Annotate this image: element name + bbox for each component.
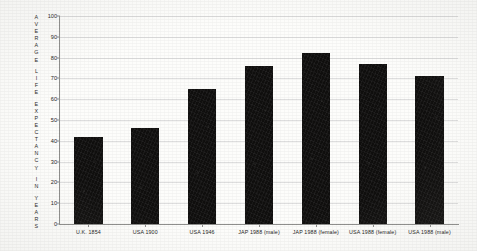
y-axis-title-letter: F	[35, 82, 39, 89]
bar-slot	[302, 16, 330, 224]
y-axis-title-letter: E	[35, 89, 39, 96]
x-tick-label: USA 1900	[133, 229, 158, 235]
bar	[415, 76, 443, 224]
y-axis-title-letter: E	[35, 101, 39, 108]
x-tick-label: JAP 1988 (female)	[293, 229, 339, 235]
bar-slot	[74, 16, 102, 224]
y-tick-label: 80	[51, 55, 57, 61]
x-tick-mark	[373, 224, 374, 227]
y-axis-title: AVERAGELIFEEXPECTANCYINYEARS	[30, 14, 43, 230]
bar	[245, 66, 273, 224]
y-tick-label: 20	[51, 179, 57, 185]
y-axis-title-letter: A	[35, 209, 39, 216]
y-axis-title-letter: V	[35, 21, 39, 28]
y-axis-title-letter: N	[34, 150, 38, 157]
bar	[74, 137, 102, 224]
bar-slot	[188, 16, 216, 224]
y-tick-label: 50	[51, 117, 57, 123]
bar	[131, 128, 159, 224]
y-tick-label: 10	[51, 200, 57, 206]
y-axis-title-letter: R	[34, 216, 38, 223]
x-axis-ticks: U.K. 1854USA 1900USA 1946JAP 1988 (male)…	[60, 224, 458, 248]
y-axis-title-letter: E	[35, 57, 39, 64]
y-axis-title-letter: G	[34, 49, 38, 56]
y-tick-label: 0	[54, 221, 57, 227]
x-tick-mark	[145, 224, 146, 227]
bar	[359, 64, 387, 224]
y-tick-label: 60	[51, 96, 57, 102]
x-tick-label: U.K. 1854	[76, 229, 101, 235]
x-tick-label: JAP 1988 (male)	[238, 229, 280, 235]
bar	[302, 53, 330, 224]
y-axis-title-letter: T	[35, 136, 39, 143]
y-axis-title-letter: I	[36, 176, 38, 183]
life-expectancy-bar-chart: AVERAGELIFEEXPECTANCYINYEARS 01020304050…	[0, 0, 477, 251]
bar-slot	[245, 16, 273, 224]
y-axis-title-letter: N	[34, 183, 38, 190]
y-tick-label: 30	[51, 159, 57, 165]
y-axis-title-letter: Y	[35, 165, 39, 172]
x-tick-mark	[430, 224, 431, 227]
x-tick-label: USA 1946	[190, 229, 215, 235]
bar-slot	[131, 16, 159, 224]
y-axis-title-letter: A	[35, 42, 39, 49]
bar-series	[60, 16, 458, 224]
y-tick-label: 100	[48, 13, 57, 19]
bar-slot	[415, 16, 443, 224]
y-axis-title-letter: I	[36, 75, 38, 82]
y-axis-title-letter: A	[35, 14, 39, 21]
x-tick-mark	[88, 224, 89, 227]
y-tick-label: 70	[51, 75, 57, 81]
y-axis-line	[59, 16, 60, 225]
y-axis-title-letter: P	[35, 115, 39, 122]
plot-area: 0102030405060708090100	[60, 16, 458, 224]
y-axis-title-letter: R	[34, 35, 38, 42]
y-axis-title-letter: A	[35, 143, 39, 150]
y-axis-title-letter: E	[35, 28, 39, 35]
x-tick-label: USA 1988 (male)	[408, 229, 451, 235]
y-tick-label: 90	[51, 34, 57, 40]
x-tick-label: USA 1988 (female)	[349, 229, 396, 235]
bar-slot	[359, 16, 387, 224]
y-axis-title-letter: C	[34, 129, 38, 136]
x-tick-mark	[316, 224, 317, 227]
x-tick-mark	[202, 224, 203, 227]
y-axis-title-letter: E	[35, 122, 39, 129]
bar	[188, 89, 216, 224]
y-axis-title-letter: L	[35, 68, 38, 75]
y-axis-title-letter: E	[35, 202, 39, 209]
x-tick-mark	[259, 224, 260, 227]
y-tick-label: 40	[51, 138, 57, 144]
y-axis-title-letter: S	[35, 223, 39, 230]
y-axis-title-letter: C	[34, 157, 38, 164]
y-axis-title-letter: X	[35, 108, 39, 115]
y-axis-title-letter: Y	[35, 195, 39, 202]
